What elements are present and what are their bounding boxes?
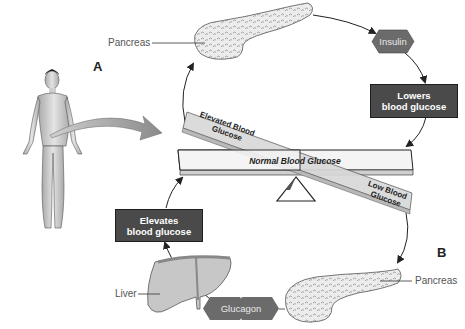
lowers-line2: blood glucose	[371, 101, 457, 112]
arrow-pancreas-to-insulin	[313, 15, 375, 33]
pancreas-bottom-label: Pancreas	[415, 276, 457, 286]
pancreas-bottom-icon	[286, 269, 402, 322]
seesaw-fulcrum	[277, 177, 315, 201]
panel-b-label: B	[437, 246, 446, 259]
lowers-blood-glucose-box: Lowers blood glucose	[370, 84, 458, 118]
panel-a-label: A	[93, 60, 102, 73]
glucagon-label: Glucagon	[203, 304, 279, 314]
normal-glucose-text: Normal Blood Glucose	[249, 156, 341, 166]
arrow-elevates-to-seesaw	[166, 178, 182, 208]
lowers-line1: Lowers	[371, 90, 457, 101]
human-figure-icon	[23, 69, 82, 228]
arrow-lowers-to-seesaw	[407, 117, 426, 146]
insulin-label: Insulin	[372, 37, 414, 47]
pancreas-top-icon	[195, 3, 313, 59]
elevates-line2: blood glucose	[116, 226, 202, 237]
elevates-line1: Elevates	[116, 215, 202, 226]
diagram-canvas: Normal Blood Glucose Elevated Blood Gluc…	[0, 0, 465, 329]
arrow-lowglucose-to-pancreas	[398, 213, 408, 262]
pancreas-top-label: Pancreas	[108, 38, 150, 48]
arrow-insulin-to-lowers	[404, 52, 425, 82]
elevates-blood-glucose-box: Elevates blood glucose	[115, 209, 203, 242]
liver-label: Liver	[115, 289, 137, 299]
